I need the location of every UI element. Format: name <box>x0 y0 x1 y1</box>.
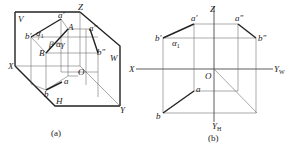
figure-a: V Z X W H Y O a′ A b′ B a″ b″ a b α1 β α… <box>7 2 126 138</box>
label-b2: b″ <box>97 47 106 57</box>
label-z: Z <box>78 2 84 12</box>
label-b-prime-b: b′ <box>155 33 163 43</box>
label-h: H <box>55 96 63 106</box>
projection-diagram: V Z X W H Y O a′ A b′ B a″ b″ a b α1 β α… <box>0 0 292 151</box>
label-A: A <box>67 22 74 32</box>
label-o: O <box>78 67 85 77</box>
label-yh: YH <box>212 121 222 132</box>
label-yw: YW <box>274 64 285 75</box>
label-B: B <box>39 48 45 58</box>
label-a: a <box>64 76 69 86</box>
line-b-prime-a-prime-b <box>163 24 194 38</box>
label-o-b: O <box>205 71 212 81</box>
label-x-b: X <box>128 64 135 74</box>
label-b-b: b <box>156 111 161 121</box>
label-b-prime: b′ <box>25 31 33 41</box>
label-a-prime-b: a′ <box>191 13 199 23</box>
line-a2-b2-b <box>238 24 256 38</box>
label-b: b <box>44 89 49 99</box>
label-a2-b: a″ <box>235 13 244 23</box>
label-w: W <box>110 53 119 63</box>
figure-b: Z X O YW YH a′ b′ a″ b″ a b α1 (b) <box>128 4 285 143</box>
label-v: V <box>18 14 25 24</box>
label-gamma: γ <box>61 39 65 49</box>
line-ab-b <box>163 91 194 113</box>
caption-b: (b) <box>208 133 219 143</box>
label-beta: β <box>48 39 54 49</box>
label-a-prime: a′ <box>58 10 66 20</box>
label-alpha1-b: α1 <box>172 38 180 49</box>
label-z-b: Z <box>210 4 216 14</box>
label-x: X <box>7 61 14 71</box>
label-a2: a″ <box>89 23 98 33</box>
label-b2-b: b″ <box>258 33 267 43</box>
caption-a: (a) <box>51 128 61 138</box>
label-y: Y <box>120 105 126 115</box>
label-a-b: a <box>196 84 201 94</box>
